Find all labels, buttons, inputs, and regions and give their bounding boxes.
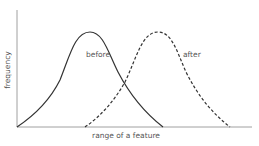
distribution-shift-chart: before after range of a feature frequenc… <box>0 0 259 146</box>
after-label: after <box>183 50 202 59</box>
x-axis-label: range of a feature <box>92 131 160 140</box>
before-label: before <box>86 50 111 59</box>
y-axis-label: frequency <box>3 51 12 89</box>
after-curve <box>85 32 230 127</box>
before-curve <box>17 32 163 127</box>
